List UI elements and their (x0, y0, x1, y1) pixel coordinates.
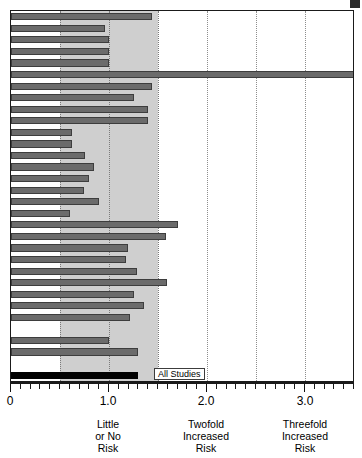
bar-study-29 (11, 337, 109, 344)
threefold-risk-line1: Threefold (282, 418, 328, 430)
tick-0.0 (10, 384, 11, 392)
tick-0.5 (59, 384, 60, 389)
tick-3.5 (353, 384, 354, 389)
x-tick-label-0: 0 (7, 394, 14, 408)
bar-study-8 (11, 94, 134, 101)
category-label-twofold-risk: Twofold Increased Risk (183, 418, 229, 454)
tick-3.1 (314, 384, 315, 389)
bar-study-4 (11, 48, 109, 55)
bar-study-7 (11, 83, 152, 90)
plot-area (10, 10, 354, 382)
tick-0.3 (39, 384, 40, 389)
bar-study-24 (11, 279, 167, 286)
tick-2.0 (206, 384, 207, 392)
bar-study-5 (11, 59, 109, 66)
bar-study-20 (11, 233, 166, 240)
tick-3.4 (343, 384, 344, 389)
bar-study-17 (11, 198, 99, 205)
bar-study-21 (11, 244, 128, 251)
bar-study-10 (11, 117, 148, 124)
tick-2.5 (255, 384, 256, 389)
bar-study-2 (11, 25, 105, 32)
x-tick-label-3: 3.0 (297, 394, 314, 408)
tick-0.4 (49, 384, 50, 389)
bar-study-26 (11, 302, 144, 309)
tick-1.7 (177, 384, 178, 389)
risk-forest-bar-chart: All Studies 0 1.0 2.0 3.0 Little or No R… (0, 0, 362, 458)
page-corner-mark (350, 0, 360, 8)
tick-3.3 (333, 384, 334, 389)
twofold-risk-line3: Risk (183, 442, 229, 454)
all-studies-annotation: All Studies (154, 368, 205, 380)
bar-study-6 (11, 71, 354, 78)
bar-series (11, 11, 353, 381)
bar-study-12 (11, 140, 72, 147)
tick-0.2 (30, 384, 31, 389)
x-tick-label-1: 1.0 (100, 394, 117, 408)
tick-1.6 (167, 384, 168, 389)
tick-0.6 (69, 384, 70, 389)
bar-study-22 (11, 256, 126, 263)
twofold-risk-line2: Increased (183, 430, 229, 442)
tick-1.5 (157, 384, 158, 389)
bar-study-14 (11, 163, 94, 170)
tick-2.3 (235, 384, 236, 389)
bar-study-1 (11, 13, 152, 20)
x-tick-label-2: 2.0 (198, 394, 215, 408)
little-risk-line2: or No (95, 430, 121, 442)
tick-3.0 (304, 384, 305, 392)
bar-study-25 (11, 291, 134, 298)
tick-1.9 (196, 384, 197, 389)
bar-study-18 (11, 210, 70, 217)
bar-study-27 (11, 314, 130, 321)
bar-study-9 (11, 106, 148, 113)
bar-study-30 (11, 348, 138, 355)
tick-1.3 (137, 384, 138, 389)
bar-study-23 (11, 268, 137, 275)
tick-0.8 (88, 384, 89, 389)
little-risk-line1: Little (95, 418, 121, 430)
tick-3.2 (324, 384, 325, 389)
category-label-little-risk: Little or No Risk (95, 418, 121, 454)
tick-1.8 (186, 384, 187, 389)
tick-2.2 (226, 384, 227, 389)
bar-study-15 (11, 175, 89, 182)
tick-1.1 (118, 384, 119, 389)
bar-study-3 (11, 36, 109, 43)
tick-2.6 (265, 384, 266, 389)
tick-2.7 (275, 384, 276, 389)
twofold-risk-line1: Twofold (183, 418, 229, 430)
bar-study-13 (11, 152, 85, 159)
bar-study-11 (11, 129, 72, 136)
tick-2.8 (284, 384, 285, 389)
category-label-threefold-risk: Threefold Increased Risk (282, 418, 328, 454)
tick-2.4 (245, 384, 246, 389)
tick-2.9 (294, 384, 295, 389)
tick-1.0 (108, 384, 109, 392)
threefold-risk-line3: Risk (282, 442, 328, 454)
bar-all-studies (11, 372, 138, 379)
tick-0.1 (20, 384, 21, 389)
threefold-risk-line2: Increased (282, 430, 328, 442)
bar-study-19 (11, 221, 178, 228)
tick-2.1 (216, 384, 217, 389)
tick-1.2 (128, 384, 129, 389)
tick-0.9 (98, 384, 99, 389)
tick-1.4 (147, 384, 148, 389)
bar-study-16 (11, 187, 84, 194)
x-axis-line (10, 382, 354, 384)
tick-0.7 (79, 384, 80, 389)
little-risk-line3: Risk (95, 442, 121, 454)
